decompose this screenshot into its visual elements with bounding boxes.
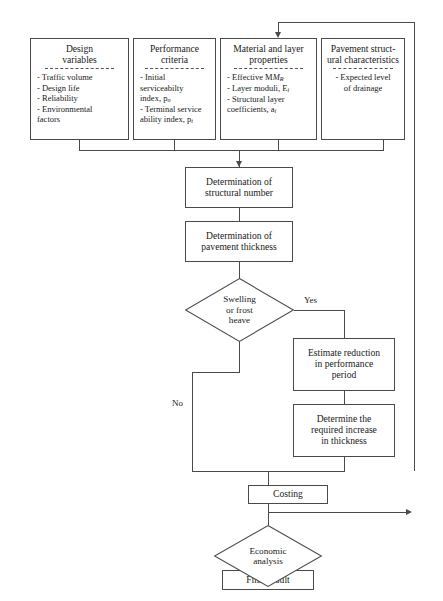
decision-no-vertical-line (239, 342, 240, 372)
costing-to-feedback-horizontal-line (268, 512, 409, 513)
no-branch-long-vertical-line (192, 372, 193, 472)
costing-to-economic-line (268, 512, 269, 525)
decision-yes-horizontal-line (294, 310, 344, 311)
node-estimate-reduction[interactable]: Estimate reduction in performance period (293, 338, 395, 391)
costing-feedback-arrow-right-icon (406, 509, 412, 515)
input-bus-horizontal-line (79, 150, 384, 151)
rejoin-to-costing-line (268, 471, 269, 485)
performance-criteria-list: - Initial serviceabilty index, po - Term… (134, 72, 215, 124)
node-swelling-or-frost-heave[interactable]: Swelling or frost heave (185, 278, 294, 342)
list-item: - Design life (37, 83, 123, 93)
list-item: - Structural layer coefficients, ai (227, 94, 311, 115)
design-variables-list: - Traffic volume - Design life - Reliabi… (31, 72, 128, 124)
list-item: - Layer moduli, Ei (227, 83, 311, 94)
input3-drop-line (278, 140, 279, 150)
list-item: - Environmental factors (37, 104, 123, 125)
decision-no-jog-line (192, 372, 240, 373)
costing-label: Costing (273, 489, 303, 500)
node-pavement-structural-characteristics[interactable]: Pavement struct- ural characteristics - … (321, 38, 405, 140)
performance-criteria-title: Performance criteria (147, 44, 202, 65)
determination-pavement-thickness-label: Determination of pavement thickness (201, 231, 276, 253)
node-determination-pavement-thickness[interactable]: Determination of pavement thickness (185, 221, 293, 262)
pavement-structural-characteristics-divider (333, 68, 392, 69)
design-variables-title: Design variables (59, 44, 100, 65)
list-item: - Expected level of drainage (326, 72, 400, 93)
edge-label-no: No (172, 398, 183, 408)
node-costing[interactable]: Costing (248, 485, 328, 504)
feedback-right-vertical-line (414, 22, 415, 471)
list-item: - Terminal service ability index, pt (140, 104, 210, 125)
determination-structural-number-label: Determination of structural number (205, 177, 273, 199)
pavement-structural-characteristics-title: Pavement struct- ural characteristics (324, 44, 402, 65)
swelling-or-frost-heave-label: Swelling or frost heave (185, 278, 294, 342)
sn-to-thickness-line (239, 208, 240, 221)
pavement-structural-characteristics-list: - Expected level of drainage (322, 72, 404, 93)
estimate-reduction-label: Estimate reduction in performance period (308, 348, 380, 381)
economic-analysis-label: Economic analysis (214, 525, 322, 587)
list-item: - Reliability (37, 93, 123, 103)
costing-down-stub-line (268, 504, 269, 512)
decision-yes-vertical-line (344, 310, 345, 338)
determine-down-line (344, 457, 345, 471)
determine-required-increase-label: Determine the required increase in thick… (311, 414, 377, 447)
input2-drop-line (174, 140, 175, 150)
thickness-to-decision-line (239, 262, 240, 278)
list-item: - Effective MMR (227, 72, 311, 83)
list-item: - Traffic volume (37, 72, 123, 82)
material-layer-properties-title: Material and layer properties (230, 44, 306, 65)
material-layer-properties-list: - Effective MMR - Layer moduli, Ei - Str… (221, 72, 316, 114)
node-economic-analysis[interactable]: Economic analysis (214, 525, 322, 587)
node-design-variables[interactable]: Design variables - Traffic volume - Desi… (30, 38, 129, 140)
input4-drop-line (383, 140, 384, 150)
input1-drop-line (79, 140, 80, 150)
design-variables-divider (45, 68, 115, 69)
estimate-to-determine-line (344, 391, 345, 404)
edge-label-yes: Yes (304, 295, 317, 305)
node-determination-structural-number[interactable]: Determination of structural number (185, 167, 293, 208)
node-determine-required-increase[interactable]: Determine the required increase in thick… (293, 404, 395, 457)
flowchart-canvas: Design variables - Traffic volume - Desi… (0, 0, 443, 601)
list-item: - Initial serviceabilty index, po (140, 72, 210, 103)
node-material-layer-properties[interactable]: Material and layer properties - Effectiv… (220, 38, 317, 140)
node-performance-criteria[interactable]: Performance criteria - Initial serviceab… (133, 38, 216, 140)
material-layer-properties-divider (234, 68, 302, 69)
feedback-top-horizontal-line (278, 22, 415, 23)
performance-criteria-divider (145, 68, 203, 69)
